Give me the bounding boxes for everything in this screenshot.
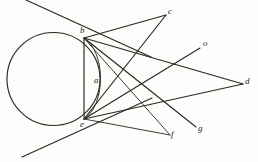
line-b-d (84, 38, 243, 84)
line-e-o (84, 48, 200, 119)
point-label-d: d (245, 77, 250, 86)
geometry-canvas (0, 0, 258, 162)
geometry-figure: b c o a d e g f (0, 0, 258, 162)
point-label-a: a (94, 76, 99, 85)
point-label-f: f (171, 130, 174, 139)
line-b-c (84, 15, 166, 38)
point-label-e: e (80, 120, 84, 129)
point-label-c: c (168, 7, 172, 16)
point-label-g: g (198, 124, 203, 133)
main-circle (7, 33, 100, 126)
tangent-through-e (22, 98, 152, 157)
line-e-f (84, 119, 170, 135)
point-label-b: b (80, 26, 85, 35)
point-label-o: o (203, 39, 208, 48)
line-b-f (84, 38, 170, 135)
